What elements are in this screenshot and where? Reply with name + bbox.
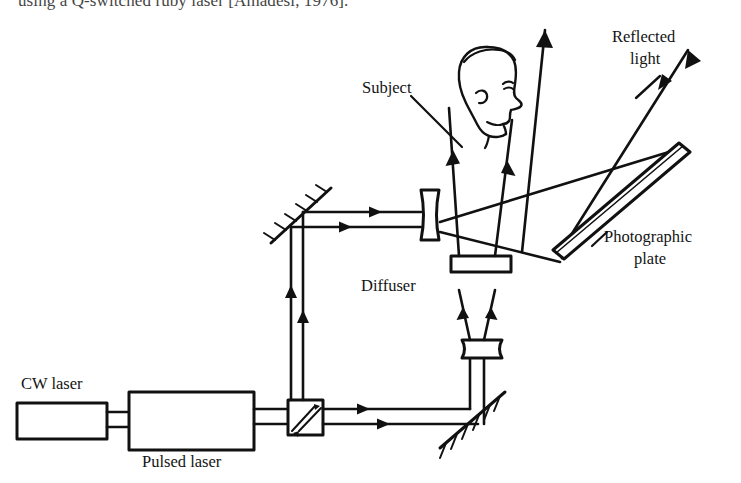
- subject-leader-line: [411, 96, 462, 147]
- photographic-plate-label-line2: plate: [634, 250, 666, 269]
- diffuser-label: Diffuser: [361, 277, 416, 296]
- beam-vertical-right: [470, 358, 484, 424]
- beam-object-horizontal: [291, 207, 421, 233]
- cw-laser-label: CW laser: [21, 375, 83, 394]
- figure-page: using a Q-switched ruby laser [Amadesi, …: [0, 0, 741, 483]
- beam-vertical-left: [285, 212, 309, 400]
- objective-lens: [462, 340, 502, 358]
- beam-reference-horizontal: [323, 404, 478, 430]
- reflected-light-label-line1: Reflected: [612, 28, 675, 47]
- pulsed-laser-box: [129, 392, 254, 450]
- mirror-upper-left: [264, 185, 331, 243]
- reflected-light-label-line2: light: [630, 50, 660, 69]
- diffuser-plate: [451, 256, 511, 272]
- subject-head-drawing: [459, 47, 522, 148]
- subject-label: Subject: [362, 79, 412, 98]
- beam-laser-to-splitter: [254, 409, 288, 424]
- beam-splitter-box: [288, 400, 323, 437]
- pulsed-laser-label: Pulsed laser: [142, 453, 221, 472]
- laser-coupling-tube: [107, 412, 129, 427]
- photographic-plate-label-line1: Photographic: [604, 228, 692, 247]
- beam-diverging-to-diffuser: [457, 290, 498, 340]
- beam-expander-lens: [421, 190, 439, 240]
- cw-laser-box: [17, 403, 107, 439]
